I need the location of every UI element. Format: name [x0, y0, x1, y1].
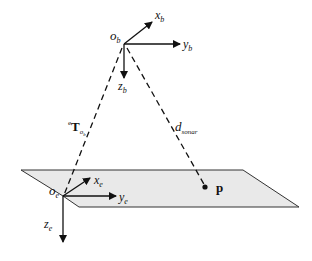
z-e-label: ze — [43, 217, 53, 233]
distance-label: dsonar — [175, 119, 198, 136]
x-b-label: xb — [154, 8, 164, 24]
transform-label: eTob — [68, 119, 86, 137]
point-p-label: p — [216, 180, 223, 195]
sonar-range-line — [127, 48, 205, 186]
x-b-axis-arrow — [124, 22, 152, 44]
frames-diagram: ob xb yb zb oe xe ye ze eTob dsonar p — [0, 0, 312, 261]
y-b-label: yb — [182, 37, 192, 53]
point-p-marker — [202, 184, 207, 189]
diagram-canvas: ob xb yb zb oe xe ye ze eTob dsonar p — [0, 0, 312, 261]
z-b-label: zb — [117, 79, 127, 95]
origin-b-label: ob — [110, 28, 121, 45]
